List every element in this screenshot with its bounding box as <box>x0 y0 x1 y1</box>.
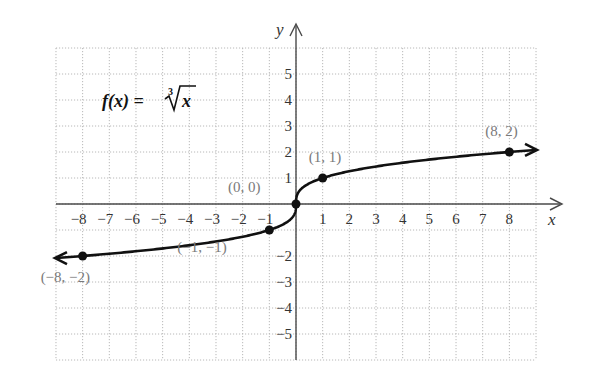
x-tick-label: −6 <box>124 211 140 227</box>
x-tick-label: 4 <box>399 211 407 227</box>
point-label: (1, 1) <box>309 149 342 166</box>
y-tick-label: 3 <box>285 118 293 134</box>
y-tick-label: −4 <box>276 300 292 316</box>
data-point <box>78 252 87 261</box>
point-label: (−8, −2) <box>41 269 90 286</box>
point-label: (0, 0) <box>228 179 261 196</box>
point-label: (−1, −1) <box>177 239 226 256</box>
x-tick-label: −4 <box>177 211 193 227</box>
y-tick-label: −2 <box>276 248 292 264</box>
x-tick-label: −3 <box>204 211 220 227</box>
x-tick-label: −1 <box>257 211 273 227</box>
y-tick-label: 5 <box>285 66 293 82</box>
y-tick-label: 2 <box>285 144 293 160</box>
y-axis-label: y <box>274 20 284 39</box>
x-tick-label: −8 <box>71 211 87 227</box>
x-tick-label: −5 <box>151 211 167 227</box>
y-tick-label: 1 <box>285 170 293 186</box>
x-axis-label: x <box>547 210 556 229</box>
x-tick-label: −7 <box>97 211 113 227</box>
title-radicand: x <box>181 91 191 111</box>
function-title: f(x) = 3 x <box>102 86 196 112</box>
data-point <box>505 148 514 157</box>
x-tick-label: 3 <box>372 211 380 227</box>
x-tick-label: 6 <box>452 211 460 227</box>
axes: x y <box>56 20 562 360</box>
x-tick-label: 7 <box>479 211 487 227</box>
cube-root-graph: x y −8−7−6−5−4−3−2−112345678 54321−2−3−4… <box>0 0 598 365</box>
title-lhs: f(x) = <box>102 91 144 112</box>
y-tick-label: −3 <box>276 274 292 290</box>
y-tick-label: 4 <box>285 92 293 108</box>
data-point <box>265 226 274 235</box>
data-point <box>318 174 327 183</box>
x-tick-label: 5 <box>426 211 434 227</box>
y-tick-label: −5 <box>276 326 292 342</box>
x-tick-label: 2 <box>346 211 354 227</box>
x-tick-label: −2 <box>231 211 247 227</box>
x-tick-label: 1 <box>319 211 327 227</box>
point-label: (8, 2) <box>485 123 518 140</box>
x-tick-label: 8 <box>506 211 514 227</box>
data-point <box>292 200 301 209</box>
